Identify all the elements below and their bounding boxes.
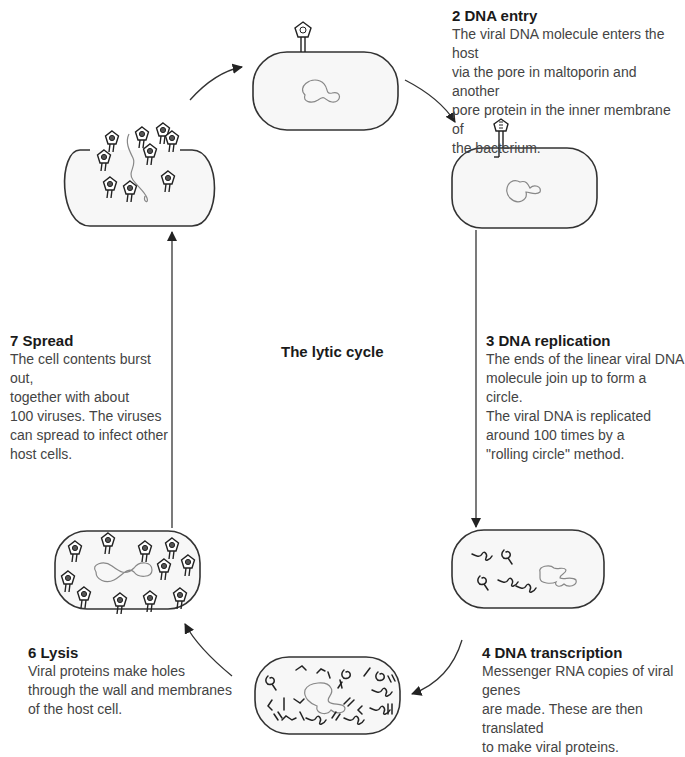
step-title: 7 Spread: [10, 331, 170, 350]
step-title: 3 DNA replication: [486, 331, 685, 350]
phage-icon: [295, 22, 311, 52]
replicated-dna-cell: [452, 530, 604, 608]
step-spread: 7 Spread The cell contents burst out, to…: [10, 331, 170, 464]
step-title: 4 DNA transcription: [482, 643, 685, 662]
step-dna-entry: 2 DNA entry The viral DNA molecule enter…: [452, 6, 682, 158]
burst-cell: [65, 123, 215, 226]
step-lysis: 6 Lysis Viral proteins make holes throug…: [28, 643, 233, 719]
assembled-phages-cell: [55, 531, 200, 614]
step-dna-replication: 3 DNA replication The ends of the linear…: [486, 331, 685, 464]
arrow-replication-to-transcription: [412, 640, 462, 694]
transcription-cell: [255, 657, 400, 734]
step-description: Messenger RNA copies of viral genes are …: [482, 662, 685, 757]
cycle-arrows: [172, 67, 476, 694]
diagram-title: The lytic cycle: [281, 343, 384, 360]
phage-attached-cell: [253, 22, 398, 130]
step-description: The viral DNA molecule enters the host v…: [452, 25, 682, 158]
arrow-spread-to-attach: [190, 67, 242, 100]
step-description: The ends of the linear viral DNA molecul…: [486, 350, 685, 464]
step-dna-transcription: 4 DNA transcription Messenger RNA copies…: [482, 643, 685, 757]
step-title: 6 Lysis: [28, 643, 233, 662]
step-description: The cell contents burst out, together wi…: [10, 350, 170, 464]
step-title: 2 DNA entry: [452, 6, 682, 25]
step-description: Viral proteins make holes through the wa…: [28, 662, 233, 719]
arrow-attach-to-entry: [405, 80, 455, 122]
